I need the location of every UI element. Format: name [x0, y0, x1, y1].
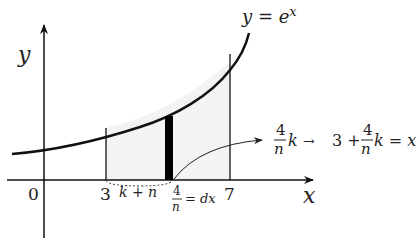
svg-text:n: n: [172, 200, 180, 214]
width-label: 4 n = dx: [172, 184, 216, 214]
tick-label-upper: 7: [224, 184, 235, 204]
maps-to-arrow: →: [303, 133, 315, 149]
riemann-sum-diagram: y x 0 3 7 k + n y = ex 4 n = dx 4 n k → …: [0, 0, 417, 243]
svg-text:3 +: 3 +: [332, 131, 361, 150]
svg-text:4: 4: [173, 184, 181, 198]
svg-text:= dx: = dx: [185, 191, 216, 206]
riemann-strip: [165, 116, 173, 180]
y-axis-label: y: [17, 42, 31, 67]
interval-label: k + n: [119, 184, 157, 200]
svg-text:k = x: k = x: [374, 131, 416, 150]
tick-label-lower: 3: [100, 184, 111, 204]
curve-label-exponent: x: [289, 4, 297, 19]
origin-label: 0: [28, 184, 39, 204]
svg-text:n: n: [361, 140, 371, 158]
svg-text:4: 4: [363, 121, 373, 139]
svg-text:n: n: [274, 140, 284, 158]
x-axis-label: x: [303, 183, 316, 208]
curve-label: y = ex: [241, 4, 297, 27]
svg-text:4: 4: [276, 121, 286, 139]
index-to-x-annotation: 4 n k → 3 + 4 n k = x: [274, 121, 416, 158]
svg-text:k: k: [288, 131, 298, 150]
